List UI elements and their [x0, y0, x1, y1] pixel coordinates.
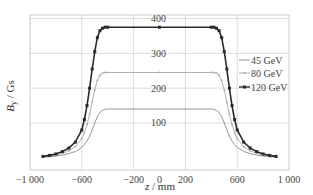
y-tick-labels: 100200300400 — [151, 13, 166, 128]
y-tick-label: 100 — [151, 117, 166, 128]
legend-item: 120 GeV — [239, 82, 288, 93]
legend-label: 45 GeV — [251, 55, 283, 66]
series-45-gev — [43, 109, 276, 157]
legend-item: 80 GeV — [239, 68, 283, 79]
legend-item: 45 GeV — [239, 55, 283, 66]
y-tick-label: 200 — [151, 83, 166, 94]
x-tick-label: −1 000 — [16, 174, 44, 185]
x-tick-label: 600 — [230, 174, 245, 185]
legend-label: 120 GeV — [251, 82, 288, 93]
x-tick-label: −200 — [123, 174, 144, 185]
x-tick-label: −600 — [71, 174, 92, 185]
x-axis-label: z / mm — [144, 180, 175, 192]
legend: 45 GeV80 GeV120 GeV — [239, 55, 288, 93]
legend-label: 80 GeV — [251, 68, 283, 79]
y-tick-label: 400 — [151, 13, 166, 24]
chart-figure: 100200300400 −1 000−600−20002006001 000 … — [0, 0, 313, 195]
y-tick-label: 300 — [151, 48, 166, 59]
x-tick-label: 200 — [178, 174, 193, 185]
y-axis-label: By / Gs — [4, 80, 18, 112]
x-tick-label: 1 000 — [278, 174, 301, 185]
